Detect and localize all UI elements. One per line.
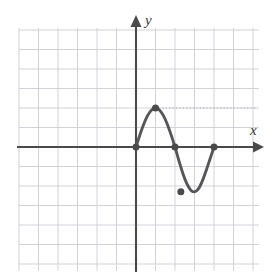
marked-point-maximum xyxy=(152,105,159,112)
marked-point-right-zero xyxy=(211,144,218,151)
y-axis-label: y xyxy=(145,13,152,28)
y-axis-arrowhead xyxy=(131,15,142,27)
x-axis-label: x xyxy=(250,123,257,138)
graph-figure: y x xyxy=(0,0,280,275)
coordinate-plane xyxy=(0,0,280,275)
marked-point-minimum xyxy=(177,188,184,195)
grid-lines xyxy=(19,28,259,271)
x-axis-arrowhead xyxy=(253,142,264,153)
axes xyxy=(17,15,264,272)
marked-point-origin-zero xyxy=(133,144,140,151)
marked-point-middle-zero xyxy=(172,144,179,151)
